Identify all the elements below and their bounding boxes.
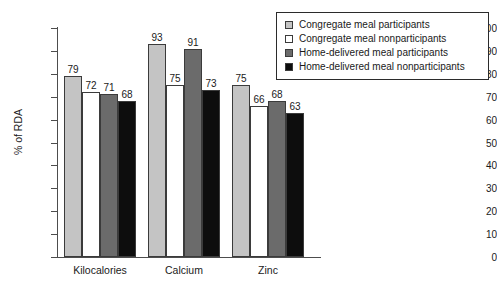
bar-value-label: 93: [142, 32, 172, 43]
bar: [268, 101, 286, 257]
y-axis-tick-label: 10: [449, 229, 497, 240]
bar: [202, 90, 220, 257]
legend-swatch-icon: [285, 21, 293, 29]
legend-swatch-icon: [285, 63, 293, 71]
y-axis-tick-label: 70: [449, 91, 497, 102]
bar-value-label: 68: [262, 89, 292, 100]
bar: [118, 101, 136, 257]
legend-item: Home-delivered meal nonparticipants: [285, 61, 481, 73]
x-axis-line: [57, 257, 321, 258]
y-axis-tick: [51, 257, 58, 258]
y-axis-tick: [51, 28, 58, 29]
y-axis-title: % of RDA: [12, 72, 24, 192]
bar: [166, 85, 184, 257]
bar-value-label: 73: [196, 78, 226, 89]
bar: [232, 85, 250, 257]
y-axis-tick: [51, 165, 58, 166]
y-axis-tick: [51, 234, 58, 235]
legend-item: Congregate meal nonparticipants: [285, 33, 481, 45]
legend-label: Home-delivered meal nonparticipants: [299, 61, 465, 73]
legend-item: Congregate meal participants: [285, 19, 481, 31]
bar-value-label: 68: [112, 89, 142, 100]
y-axis-tick: [51, 97, 58, 98]
bar-chart: % of RDA 0102030405060708090100 Kilocalo…: [0, 0, 497, 292]
bar-value-label: 75: [226, 73, 256, 84]
y-axis-tick-label: 40: [449, 160, 497, 171]
y-axis-tick: [51, 143, 58, 144]
legend-label: Congregate meal nonparticipants: [299, 33, 446, 45]
legend-label: Congregate meal participants: [299, 19, 430, 31]
legend-swatch-icon: [285, 49, 293, 57]
legend-item: Home-delivered meal participants: [285, 47, 481, 59]
y-axis-tick: [51, 74, 58, 75]
y-axis-tick-label: 20: [449, 206, 497, 217]
y-axis-tick: [51, 51, 58, 52]
y-axis-tick: [51, 211, 58, 212]
legend-label: Home-delivered meal participants: [299, 47, 448, 59]
x-axis-category-label: Zinc: [208, 264, 328, 276]
bar-value-label: 79: [58, 64, 88, 75]
bar-group: 79727168: [64, 28, 136, 257]
legend-swatch-icon: [285, 35, 293, 43]
bar: [64, 76, 82, 257]
y-axis-tick-label: 60: [449, 114, 497, 125]
bar-value-label: 91: [178, 37, 208, 48]
y-axis-tick: [51, 188, 58, 189]
y-axis-tick-label: 0: [449, 252, 497, 263]
bar-group: 93759173: [148, 28, 220, 257]
y-axis-tick: [51, 120, 58, 121]
y-axis-tick-label: 30: [449, 183, 497, 194]
bar: [100, 94, 118, 257]
y-axis-tick-label: 50: [449, 137, 497, 148]
bar-value-label: 63: [280, 101, 310, 112]
chart-legend: Congregate meal participantsCongregate m…: [276, 12, 489, 80]
bar: [250, 106, 268, 257]
bar: [286, 113, 304, 257]
bar: [82, 92, 100, 257]
